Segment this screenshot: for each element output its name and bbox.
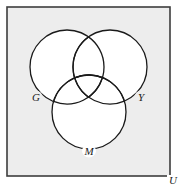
set-label-g: G	[32, 91, 40, 103]
venn-diagram-figure: G Y M U	[0, 0, 187, 194]
universe-label: U	[169, 174, 178, 186]
set-label-m: M	[83, 145, 94, 157]
venn-diagram-canvas: G Y M U	[0, 0, 187, 194]
